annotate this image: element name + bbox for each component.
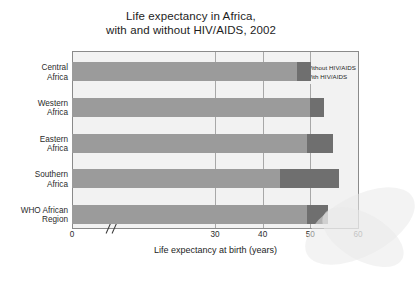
category-label: WesternAfrica [0, 99, 68, 118]
x-tick-30: 30 [210, 230, 219, 239]
x-tick-40: 40 [258, 230, 267, 239]
bar-segment-without-hiv [307, 205, 328, 224]
bar-segment-without-hiv [280, 169, 339, 188]
bar-segment-with-hiv [72, 62, 297, 81]
bar-segment-without-hiv [310, 98, 324, 117]
bar-row [72, 169, 358, 188]
bar-row [72, 62, 358, 81]
category-label-line: Eastern [0, 135, 68, 144]
bar-segment-without-hiv [307, 134, 333, 153]
chart-title-line-1: Life expectancy in Africa, [126, 10, 256, 22]
x-tick-50: 50 [306, 230, 315, 239]
category-label-line: Africa [0, 180, 68, 189]
chart-title-line-2: with and without HIV/AIDS, 2002 [0, 23, 382, 37]
category-label-line: Africa [0, 108, 68, 117]
bar-segment-with-hiv [72, 134, 307, 153]
category-label-line: Africa [0, 144, 68, 153]
axis-break-icon [103, 222, 121, 234]
bar-segment-with-hiv [72, 98, 310, 117]
category-label: SouthernAfrica [0, 170, 68, 189]
category-label: WHO AfricanRegion [0, 206, 68, 225]
category-label: EasternAfrica [0, 135, 68, 154]
category-label-line: Western [0, 99, 68, 108]
category-label-line: Region [0, 215, 68, 224]
bar-row [72, 134, 358, 153]
category-label-line: WHO African [0, 206, 68, 215]
x-axis-title: Life expectancy at birth (years) [72, 245, 359, 255]
category-label-line: Central [0, 63, 68, 72]
bar-row [72, 205, 358, 224]
bar-segment-without-hiv [297, 62, 311, 81]
bar-segment-with-hiv [72, 169, 280, 188]
category-label-line: Southern [0, 170, 68, 179]
chart-title: Life expectancy in Africa, with and with… [0, 9, 382, 37]
x-tick-60: 60 [353, 230, 362, 239]
bar-segment-with-hiv [72, 205, 307, 224]
x-tick-0: 0 [70, 230, 75, 239]
category-label: CentralAfrica [0, 63, 68, 82]
category-label-line: Africa [0, 73, 68, 82]
bar-row [72, 98, 358, 117]
